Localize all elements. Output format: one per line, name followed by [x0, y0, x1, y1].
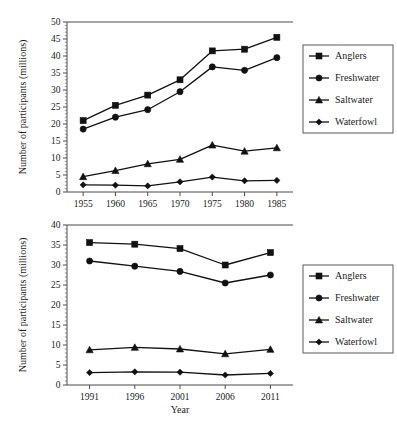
- y-tick-label: 5: [56, 360, 61, 370]
- y-tick-label: 25: [51, 280, 61, 290]
- y-tick-label: 10: [51, 153, 61, 163]
- y-tick-label: 15: [51, 320, 61, 330]
- data-point-marker-diamond: [241, 178, 247, 184]
- data-point-marker-circle: [316, 295, 322, 301]
- data-point-marker-diamond: [177, 179, 183, 185]
- data-point-marker-circle: [132, 263, 138, 269]
- series-anglers: [80, 34, 280, 123]
- data-point-marker-circle: [241, 67, 247, 73]
- data-point-marker-square: [316, 53, 322, 59]
- y-tick-label: 5: [56, 170, 61, 180]
- series-freshwater: [87, 258, 274, 286]
- x-tick-label: 1985: [267, 199, 286, 209]
- data-point-marker-square: [132, 241, 138, 247]
- data-point-marker-circle: [177, 268, 183, 274]
- data-point-marker-square: [145, 92, 151, 98]
- chart-svg-top: 0510152025303540455019551960196519701975…: [0, 0, 397, 212]
- data-point-marker-square: [112, 102, 118, 108]
- legend-label: Saltwater: [335, 94, 373, 105]
- x-axis-ticks: 1955196019651970197519801985: [74, 192, 287, 209]
- y-tick-label: 15: [51, 136, 61, 146]
- y-tick-label: 20: [51, 300, 61, 310]
- data-point-marker-circle: [209, 64, 215, 70]
- series-freshwater: [80, 55, 280, 133]
- x-tick-label: 2011: [261, 392, 280, 402]
- chart-panel-bottom: 051015202530354019911996200120062011Numb…: [0, 212, 397, 440]
- data-point-marker-square: [209, 48, 215, 54]
- x-tick-label: 1975: [203, 199, 222, 209]
- y-axis-ticks: 05101520253035404550: [51, 17, 67, 197]
- data-point-marker-triangle: [176, 156, 183, 163]
- series-saltwater: [80, 141, 281, 179]
- data-point-marker-square: [177, 246, 183, 252]
- legend-label: Waterfowl: [335, 116, 377, 127]
- y-tick-label: 20: [51, 119, 61, 129]
- y-tick-label: 35: [51, 240, 61, 250]
- data-point-marker-circle: [112, 114, 118, 120]
- y-tick-label: 0: [56, 187, 61, 197]
- data-point-marker-circle: [267, 272, 273, 278]
- x-tick-label: 2001: [171, 392, 190, 402]
- series-saltwater: [86, 344, 274, 357]
- data-point-marker-circle: [87, 258, 93, 264]
- legend-label: Anglers: [335, 50, 367, 61]
- data-point-marker-circle: [145, 107, 151, 113]
- x-tick-label: 1955: [74, 199, 93, 209]
- y-tick-label: 30: [51, 260, 61, 270]
- x-axis-ticks: 19911996200120062011: [80, 385, 280, 402]
- data-point-marker-diamond: [132, 369, 138, 375]
- chart-panel-top: 0510152025303540455019551960196519701975…: [0, 0, 397, 212]
- data-point-marker-diamond: [80, 182, 86, 188]
- data-point-marker-diamond: [177, 369, 183, 375]
- data-point-marker-square: [316, 273, 322, 279]
- data-point-marker-diamond: [145, 183, 151, 189]
- data-point-marker-circle: [80, 126, 86, 132]
- y-tick-label: 30: [51, 85, 61, 95]
- data-point-marker-diamond: [209, 174, 215, 180]
- x-tick-label: 1991: [80, 392, 99, 402]
- x-tick-label: 1960: [106, 199, 125, 209]
- legend: AnglersFreshwaterSaltwaterWaterfowl: [303, 265, 393, 353]
- y-axis-title: Number of participants (millions): [17, 40, 29, 175]
- data-point-marker-circle: [222, 280, 228, 286]
- legend-label: Freshwater: [335, 292, 380, 303]
- plot-frame: [67, 22, 293, 192]
- legend: AnglersFreshwaterSaltwaterWaterfowl: [303, 45, 393, 133]
- legend-label: Saltwater: [335, 314, 373, 325]
- y-axis-title: Number of participants (millions): [17, 238, 29, 373]
- data-point-marker-square: [274, 34, 280, 40]
- data-point-marker-circle: [274, 55, 280, 61]
- data-point-marker-square: [177, 77, 183, 83]
- x-tick-label: 1980: [235, 199, 254, 209]
- data-point-marker-diamond: [112, 182, 118, 188]
- x-tick-label: 1970: [171, 199, 190, 209]
- series-group: [80, 34, 281, 189]
- data-point-marker-square: [87, 240, 93, 246]
- y-tick-label: 40: [51, 220, 61, 230]
- data-point-marker-diamond: [87, 370, 93, 376]
- series-group: [86, 240, 274, 379]
- x-tick-label: 1965: [138, 199, 157, 209]
- data-point-marker-square: [267, 250, 273, 256]
- x-tick-label: 2006: [216, 392, 235, 402]
- data-point-marker-diamond: [222, 372, 228, 378]
- legend-label: Waterfowl: [335, 336, 377, 347]
- data-point-marker-square: [222, 262, 228, 268]
- data-point-marker-diamond: [274, 177, 280, 183]
- data-point-marker-square: [80, 118, 86, 124]
- x-axis-title: Year: [171, 404, 190, 415]
- data-point-marker-circle: [316, 75, 322, 81]
- data-point-marker-circle: [177, 89, 183, 95]
- y-tick-label: 25: [51, 102, 61, 112]
- y-tick-label: 10: [51, 340, 61, 350]
- y-tick-label: 35: [51, 68, 61, 78]
- y-axis-ticks: 0510152025303540: [51, 220, 67, 390]
- data-point-marker-triangle: [209, 141, 216, 148]
- y-tick-label: 50: [51, 17, 61, 27]
- series-waterfowl: [80, 174, 280, 189]
- data-point-marker-diamond: [267, 370, 273, 376]
- chart-svg-bottom: 051015202530354019911996200120062011Numb…: [0, 212, 397, 440]
- x-tick-label: 1996: [125, 392, 144, 402]
- figure-two-panel-line-charts: 0510152025303540455019551960196519701975…: [0, 0, 397, 440]
- y-tick-label: 0: [56, 380, 61, 390]
